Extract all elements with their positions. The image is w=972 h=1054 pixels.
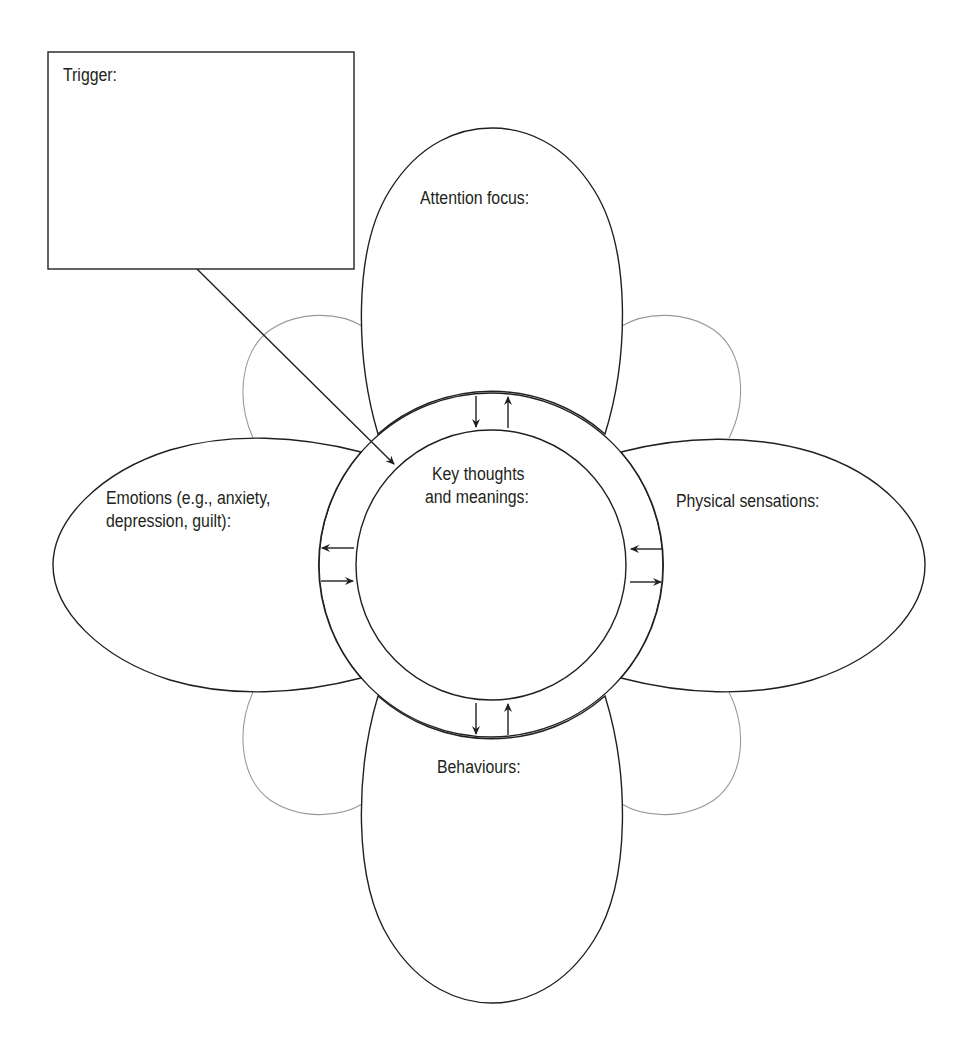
ghost-petal-top-right <box>620 315 741 438</box>
ghost-petal-bottom-right <box>620 692 741 815</box>
petal-attention-focus[interactable] <box>361 128 622 434</box>
petal-emotions[interactable] <box>53 438 361 692</box>
emotions-label-line2: depression, guilt): <box>106 510 231 532</box>
ghost-petal-top-left <box>243 315 364 438</box>
emotions-label-line1: Emotions (e.g., anxiety, <box>106 487 270 509</box>
behaviours-label: Behaviours: <box>437 756 521 778</box>
petal-behaviours[interactable] <box>361 696 622 1003</box>
petal-physical-sensations[interactable] <box>621 439 925 692</box>
physical-sensations-label: Physical sensations: <box>676 490 820 512</box>
trigger-label: Trigger: <box>63 64 117 86</box>
ghost-petal-bottom-left <box>243 692 364 815</box>
key-thoughts-label-line2: and meanings: <box>425 486 529 508</box>
key-thoughts-label-line1: Key thoughts <box>432 463 524 485</box>
attention-focus-label: Attention focus: <box>420 187 529 209</box>
